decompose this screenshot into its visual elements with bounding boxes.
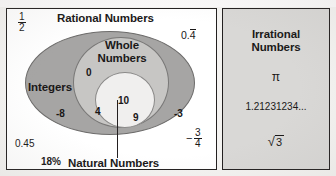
member-zero-point-four-five: 0.45	[15, 138, 34, 149]
member-zero-point-four-repeating: 0.4	[181, 29, 196, 42]
natural-numbers-leader-line	[117, 100, 118, 158]
irrational-heading-line2: Numbers	[251, 41, 300, 53]
negative-sign: −	[186, 132, 194, 144]
irrational-heading-line1: Irrational	[252, 28, 300, 40]
radical-expression: √3	[268, 135, 284, 150]
whole-numbers-heading-line1: Whole	[105, 39, 139, 51]
member-zero: 0	[86, 67, 92, 78]
member-nine: 9	[133, 112, 139, 123]
radicand-value: 3	[275, 135, 284, 148]
one-half-denominator: 2	[18, 22, 26, 33]
member-one-half-fraction: 1 2	[18, 12, 26, 33]
whole-numbers-heading-line2: Numbers	[97, 52, 146, 64]
one-half-numerator: 1	[18, 12, 26, 22]
member-eighteen-percent: 18%	[41, 156, 61, 167]
member-pi: π	[222, 71, 330, 84]
rational-numbers-heading: Rational Numbers	[57, 12, 154, 25]
member-negative-three-quarters: − 3 4	[186, 128, 202, 149]
whole-numbers-heading: Whole Numbers	[90, 39, 154, 65]
member-square-root-three: √3	[222, 135, 330, 150]
irrational-numbers-heading: Irrational Numbers	[222, 28, 330, 54]
neg-three-quarters-numerator: 3	[194, 128, 202, 138]
real-number-system-diagram: Rational Numbers Integers Whole Numbers …	[0, 0, 336, 176]
neg-three-quarters-denominator: 4	[194, 138, 202, 149]
top-caption-strip	[0, 0, 336, 7]
member-ten: 10	[118, 95, 129, 106]
radical-sign-icon: √	[268, 134, 275, 149]
repeating-decimal-digit-with-vinculum: 4	[190, 29, 196, 41]
integers-heading: Integers	[28, 81, 72, 94]
member-negative-three: -3	[174, 108, 183, 119]
member-negative-eight: -8	[56, 108, 65, 119]
member-nonrepeating-decimal: 1.21231234...	[222, 101, 330, 112]
member-four: 4	[95, 106, 101, 117]
natural-numbers-heading: Natural Numbers	[68, 157, 159, 170]
repeating-decimal-lead: 0.	[181, 29, 190, 41]
